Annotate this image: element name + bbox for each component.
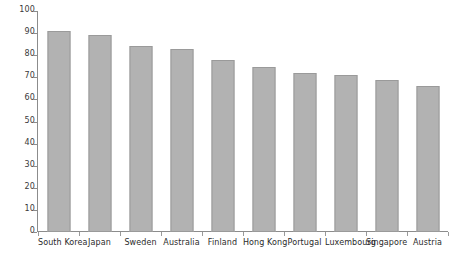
bar[interactable] [88, 35, 111, 232]
bar-slot [38, 11, 79, 232]
y-axis-tick-label: 50 [24, 116, 35, 125]
x-axis-tick-label: Singapore [366, 238, 407, 248]
x-axis-separator [366, 232, 367, 236]
x-axis-separator [325, 232, 326, 236]
y-axis-tick-mark [33, 99, 37, 100]
x-axis-tick-label: Hong Kong [243, 238, 284, 248]
y-axis-tick-label: 60 [24, 93, 35, 102]
x-axis-tick-label: Luxembourg [325, 238, 366, 248]
x-axis-tick-label: Japan [79, 238, 120, 248]
bar[interactable] [293, 73, 316, 232]
y-axis-tick-label: 70 [24, 71, 35, 80]
x-axis-separator [284, 232, 285, 236]
y-axis-tick-label: 80 [24, 49, 35, 58]
bar-slot [79, 11, 120, 232]
x-axis-separator [79, 232, 80, 236]
x-axis-separator [120, 232, 121, 236]
y-axis-tick-mark [33, 232, 37, 233]
bar[interactable] [416, 86, 439, 232]
bar-slot [407, 11, 448, 232]
bars-layer [38, 11, 448, 232]
bar[interactable] [375, 80, 398, 232]
x-axis-tick-label: Finland [202, 238, 243, 248]
y-axis-tick-label: 0 [30, 226, 35, 235]
y-axis-tick-label: 40 [24, 138, 35, 147]
bar-slot [366, 11, 407, 232]
bar-slot [243, 11, 284, 232]
x-axis-separator [202, 232, 203, 236]
y-axis-tick-label: 100 [19, 5, 35, 14]
y-axis-tick-label: 20 [24, 182, 35, 191]
y-axis-tick-label: 30 [24, 160, 35, 169]
x-axis-tick-label: Australia [161, 238, 202, 248]
x-axis-tick-label: South Korea [38, 238, 79, 248]
x-axis-separator [38, 232, 39, 236]
y-axis-tick-label: 90 [24, 27, 35, 36]
x-axis-tick-label: Portugal [284, 238, 325, 248]
bar-slot [284, 11, 325, 232]
y-axis-tick-mark [33, 11, 37, 12]
y-axis-tick-label: 10 [24, 204, 35, 213]
y-axis-tick-mark [33, 77, 37, 78]
bar-slot [161, 11, 202, 232]
bar[interactable] [252, 67, 275, 232]
x-axis-separator [407, 232, 408, 236]
bar-slot [202, 11, 243, 232]
bar-slot [120, 11, 161, 232]
bar[interactable] [47, 31, 70, 232]
x-axis-separator [448, 232, 449, 236]
y-axis-tick-mark [33, 144, 37, 145]
y-axis-tick-mark [33, 33, 37, 34]
bar[interactable] [170, 49, 193, 232]
x-axis-separator [243, 232, 244, 236]
x-axis-separator [161, 232, 162, 236]
bar-slot [325, 11, 366, 232]
y-axis-tick-mark [33, 166, 37, 167]
y-axis-tick-mark [33, 122, 37, 123]
bar[interactable] [129, 46, 152, 232]
y-axis-tick-mark [33, 188, 37, 189]
bar-chart: 0102030405060708090100 South KoreaJapanS… [0, 0, 453, 272]
y-axis-tick-mark [33, 210, 37, 211]
x-axis-tick-label: Sweden [120, 238, 161, 248]
bar[interactable] [334, 75, 357, 232]
x-axis-tick-label: Austria [407, 238, 448, 248]
bar[interactable] [211, 60, 234, 232]
y-axis-tick-mark [33, 55, 37, 56]
